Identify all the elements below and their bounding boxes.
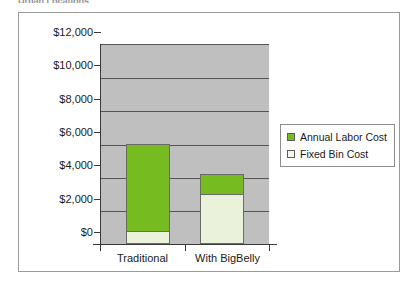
- legend-label-fixed-bin-cost: Fixed Bin Cost: [300, 149, 368, 160]
- legend-swatch-annual-labor-cost: [287, 133, 295, 141]
- chart-frame: $12,000 $10,000 $8,000 $6,000 $4,000 $2,…: [18, 12, 400, 272]
- gridline-10000: [101, 78, 269, 79]
- x-axis-tick-left: [100, 245, 101, 251]
- x-axis-tick-right: [269, 245, 270, 251]
- y-axis-label-8000: $8,000: [35, 94, 93, 105]
- x-axis-tick-middle: [185, 245, 186, 251]
- y-axis-label-2000: $2,000: [35, 194, 93, 205]
- bar-segment-with-bigbelly-annual-labor-cost[interactable]: [200, 174, 244, 195]
- gridline-8000: [101, 111, 269, 112]
- y-axis-label-4000: $4,000: [35, 160, 93, 171]
- legend-item-annual-labor-cost[interactable]: Annual Labor Cost: [287, 130, 387, 144]
- chart-caption-text: Urban Locations: [18, 0, 178, 3]
- bar-traditional[interactable]: [126, 144, 170, 245]
- y-axis-tick-12000: [94, 32, 101, 33]
- chart-legend: Annual Labor Cost Fixed Bin Cost: [280, 124, 395, 167]
- chart-caption: Urban Locations: [18, 0, 178, 3]
- y-axis-label-12000: $12,000: [35, 27, 93, 38]
- y-axis-label-6000: $6,000: [35, 127, 93, 138]
- y-axis-line: [100, 44, 101, 245]
- bar-segment-traditional-fixed-bin-cost[interactable]: [126, 231, 170, 244]
- bar-segment-with-bigbelly-fixed-bin-cost[interactable]: [200, 194, 244, 244]
- bar-with-bigbelly[interactable]: [200, 174, 244, 245]
- legend-swatch-fixed-bin-cost: [287, 150, 295, 158]
- bar-segment-traditional-annual-labor-cost[interactable]: [126, 144, 170, 232]
- legend-item-fixed-bin-cost[interactable]: Fixed Bin Cost: [287, 147, 387, 161]
- y-axis-label-0: $0: [35, 227, 93, 238]
- plot-area: [101, 44, 269, 245]
- x-axis-label-traditional: Traditional: [100, 252, 185, 264]
- y-axis-label-10000: $10,000: [35, 60, 93, 71]
- x-axis-label-with-bigbelly: With BigBelly: [185, 252, 270, 264]
- y-axis-labels: $12,000 $10,000 $8,000 $6,000 $4,000 $2,…: [23, 13, 93, 273]
- legend-label-annual-labor-cost: Annual Labor Cost: [300, 132, 387, 143]
